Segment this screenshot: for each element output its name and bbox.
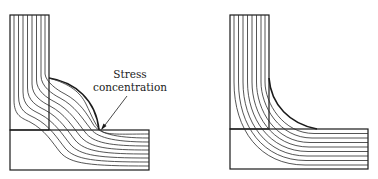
left-vertical-member — [10, 15, 49, 130]
annotation-stress: Stress — [113, 68, 146, 80]
right-flow-lines — [234, 15, 368, 165]
right-panel — [230, 15, 368, 169]
right-horizontal-member — [230, 129, 368, 169]
annotation-arrow — [101, 96, 127, 130]
diagram-canvas: Stress concentration — [0, 0, 378, 179]
left-panel: Stress concentration — [10, 15, 167, 170]
annotation-concentration: concentration — [93, 81, 167, 93]
